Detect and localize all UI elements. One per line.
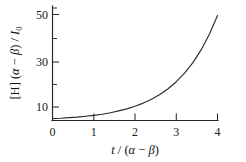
x-axis-title-minus: − <box>138 143 145 157</box>
data-curve-exponential <box>53 16 218 119</box>
y-axis-title-minus: − <box>8 58 22 65</box>
figure-container: 50 30 10 0 1 2 3 4 t / (α − β) [H] (α − … <box>0 0 246 162</box>
y-axis-title-subscript: 0 <box>14 26 24 30</box>
x-tick-label-3: 3 <box>173 125 179 139</box>
x-axis-title: t / (α − β) <box>111 143 159 157</box>
x-tick-label-2: 2 <box>132 125 138 139</box>
y-tick-label-10: 10 <box>36 100 48 114</box>
x-tick-label-4: 4 <box>215 125 221 139</box>
exponential-plot: 50 30 10 0 1 2 3 4 t / (α − β) [H] (α − … <box>0 0 246 162</box>
y-tick-label-30: 30 <box>36 55 48 69</box>
y-axis-title-species: [H] <box>8 82 22 99</box>
y-axis-title: [H] (α − β) / I0 <box>8 26 24 99</box>
x-tick-label-0: 0 <box>50 125 56 139</box>
y-tick-label-50: 50 <box>36 8 48 22</box>
x-tick-label-1: 1 <box>91 125 97 139</box>
x-axis-title-close-paren: ) <box>155 143 159 157</box>
